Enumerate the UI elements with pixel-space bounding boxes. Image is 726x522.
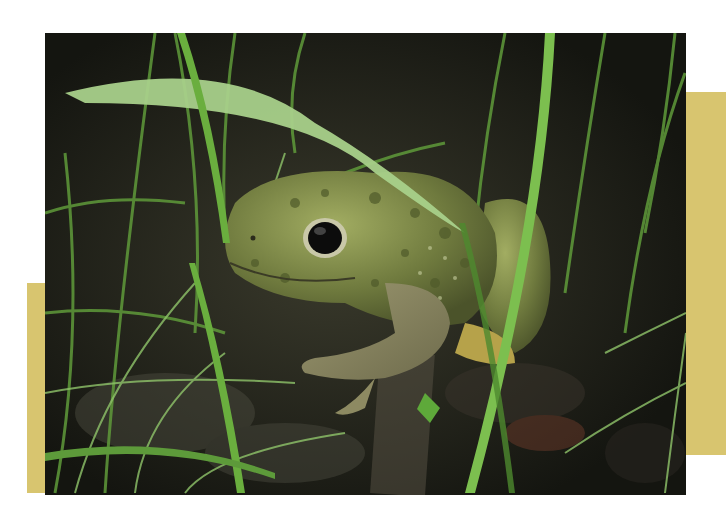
frog-photo: Frog among grass blades xyxy=(45,33,686,495)
frog-nostril xyxy=(251,236,256,241)
accent-bar-left xyxy=(27,283,45,493)
accent-bar-right xyxy=(686,92,726,455)
photo-illustration xyxy=(45,33,686,495)
frog-eye xyxy=(308,222,342,254)
frog-eye-highlight xyxy=(314,227,326,235)
